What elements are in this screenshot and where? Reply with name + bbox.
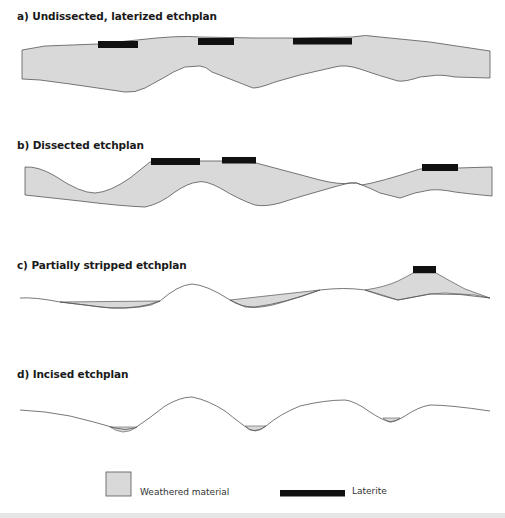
panel-d-ground-surface (20, 397, 490, 431)
panel-a-laterite-2 (198, 38, 234, 45)
panel-c-profile (20, 266, 490, 308)
legend-laterite-label: Laterite (352, 486, 387, 496)
panel-a-weathered-material (22, 36, 490, 93)
legend-weathered-label: Weathered material (140, 487, 229, 497)
panel-c-weathered-pocket-2 (230, 290, 320, 308)
legend-laterite-swatch (280, 490, 345, 497)
panel-b-weathered-material (25, 161, 492, 207)
bottom-strip (0, 513, 505, 518)
panel-b-laterite-2 (222, 157, 256, 164)
etchplan-diagram (0, 0, 505, 518)
panel-c-laterite (413, 266, 436, 273)
panel-b-profile (25, 157, 492, 207)
panel-c-weathered-pocket-1 (60, 301, 160, 308)
panel-a-laterite-1 (98, 41, 138, 48)
panel-b-laterite-1 (151, 158, 200, 165)
panel-b-laterite-3 (422, 164, 458, 171)
panel-a-laterite-3 (293, 38, 352, 45)
legend-weathered-swatch (106, 472, 131, 496)
panel-a-profile (22, 36, 490, 93)
panel-d-profile (20, 397, 490, 432)
